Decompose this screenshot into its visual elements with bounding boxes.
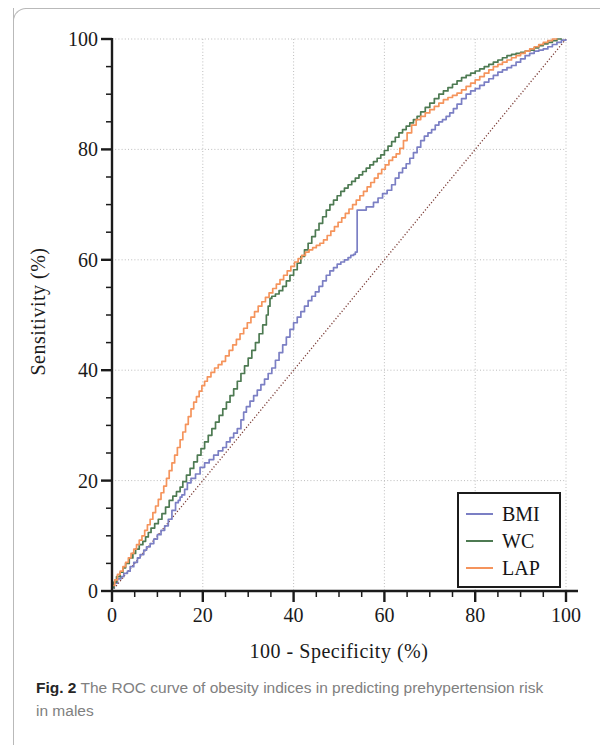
x-tick-label: 0 xyxy=(107,604,117,627)
y-tick-label: 40 xyxy=(0,359,98,382)
y-tick-label: 60 xyxy=(0,248,98,271)
plot-area: Sensitivity (%) 100 - Specificity (%) 02… xyxy=(0,0,600,660)
legend-item-wc: WC xyxy=(459,527,559,554)
legend-swatch-wc xyxy=(466,540,493,542)
figure-caption-text: The ROC curve of obesity indices in pred… xyxy=(36,679,543,719)
x-tick-label: 40 xyxy=(284,604,304,627)
legend-item-lap: LAP xyxy=(459,554,559,581)
x-axis-label: 100 - Specificity (%) xyxy=(112,640,566,663)
legend-label-lap: LAP xyxy=(502,558,540,578)
legend-swatch-bmi xyxy=(466,513,493,515)
x-tick-label: 60 xyxy=(374,604,394,627)
y-tick-label: 0 xyxy=(0,580,98,603)
figure-caption: Fig. 2 The ROC curve of obesity indices … xyxy=(36,676,556,723)
legend-label-bmi: BMI xyxy=(502,504,540,524)
legend-swatch-lap xyxy=(466,567,493,569)
x-tick-label: 20 xyxy=(193,604,213,627)
x-tick-label: 100 xyxy=(551,604,581,627)
y-tick-label: 20 xyxy=(0,469,98,492)
figure-page: Sensitivity (%) 100 - Specificity (%) 02… xyxy=(0,0,600,745)
chart-legend: BMI WC LAP xyxy=(457,492,561,588)
legend-item-bmi: BMI xyxy=(459,500,559,527)
y-tick-label: 100 xyxy=(0,28,98,51)
legend-label-wc: WC xyxy=(502,531,534,551)
y-tick-label: 80 xyxy=(0,138,98,161)
x-tick-label: 80 xyxy=(465,604,485,627)
figure-caption-label: Fig. 2 xyxy=(36,679,76,696)
roc-figure: Sensitivity (%) 100 - Specificity (%) 02… xyxy=(0,0,600,660)
